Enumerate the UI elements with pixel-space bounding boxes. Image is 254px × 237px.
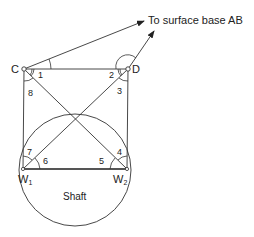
angle-arc-6 — [35, 158, 40, 169]
angle-label-4: 4 — [117, 147, 122, 157]
weisbach-triangle-diagram: To surface base AB C D W1 W2 1 2 3 4 5 6… — [0, 0, 254, 237]
angle-label-6: 6 — [43, 156, 48, 166]
line-c-w1 — [23, 69, 24, 169]
angle-label-5: 5 — [99, 156, 104, 166]
point-w1-label: W1 — [18, 173, 32, 186]
angle-label-3: 3 — [117, 86, 122, 96]
angle-arc-2a — [120, 69, 122, 75]
angle-arc-c-surface — [49, 59, 51, 69]
shaft-label: Shaft — [63, 191, 87, 202]
angle-arc-3 — [119, 78, 128, 81]
angle-label-2: 2 — [109, 70, 114, 80]
point-w2-label: W2 — [113, 173, 127, 186]
diagram-svg: To surface base AB C D W1 W2 1 2 3 4 5 6… — [0, 0, 254, 237]
angle-label-7: 7 — [27, 147, 32, 157]
angle-label-8: 8 — [28, 88, 33, 98]
line-d-w2 — [127, 69, 128, 169]
surface-base-label: To surface base AB — [148, 14, 243, 26]
point-d-marker — [126, 67, 130, 71]
diagonal-d-w1 — [23, 69, 128, 169]
point-w1-marker — [21, 167, 24, 170]
arrow-c-to-surface-icon — [24, 21, 144, 69]
point-w2-marker — [125, 167, 128, 170]
angle-arc-5 — [110, 158, 115, 169]
angle-arc-8 — [24, 78, 33, 81]
angle-label-1: 1 — [38, 70, 43, 80]
point-c-marker — [22, 67, 26, 71]
point-d-label: D — [132, 63, 140, 75]
point-c-label: C — [11, 63, 19, 75]
angle-arc-1a — [30, 69, 32, 75]
